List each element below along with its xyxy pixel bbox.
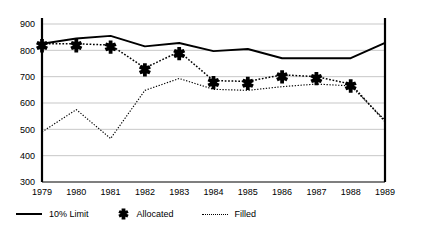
series-line-10-limit — [42, 36, 385, 58]
dotted-line-swatch — [202, 214, 228, 215]
x-axis-tick-label: 1986 — [272, 187, 292, 197]
x-axis-tick-label: 1982 — [135, 187, 155, 197]
y-axis-tick-label: 700 — [20, 72, 35, 82]
cross-marker-swatch — [117, 208, 130, 221]
data-point-marker-allocated — [310, 72, 322, 85]
x-axis-tick-label: 1980 — [66, 187, 86, 197]
x-axis-tick-label: 1987 — [306, 187, 326, 197]
y-axis-tick-label: 300 — [20, 177, 35, 187]
legend-label-10-limit: 10% Limit — [49, 209, 89, 219]
y-axis-tick-label: 600 — [20, 98, 35, 108]
y-axis-tick-label: 500 — [20, 125, 35, 135]
x-axis-tick-label: 1979 — [32, 187, 52, 197]
x-axis-tick-label: 1989 — [375, 187, 395, 197]
data-point-marker-allocated — [139, 63, 151, 76]
x-axis-tick-label: 1983 — [169, 187, 189, 197]
data-point-marker-allocated — [242, 77, 254, 90]
x-axis-tick-label: 1985 — [238, 187, 258, 197]
solid-line-swatch — [16, 213, 42, 215]
legend-item-filled[interactable]: Filled — [202, 209, 257, 219]
y-axis-tick-label: 400 — [20, 151, 35, 161]
legend-item-allocated[interactable]: Allocated — [117, 208, 174, 221]
line-chart: 3004005006007008009001979198019811982198… — [0, 0, 422, 202]
x-axis-tick-label: 1988 — [341, 187, 361, 197]
chart-legend: 10% Limit Allocated Filled — [0, 202, 422, 226]
data-point-marker-allocated — [345, 79, 357, 92]
y-axis-tick-label: 900 — [20, 19, 35, 29]
legend-item-10-limit[interactable]: 10% Limit — [16, 209, 89, 219]
legend-label-allocated: Allocated — [137, 209, 174, 219]
chart-container: 3004005006007008009001979198019811982198… — [0, 0, 422, 232]
legend-label-filled: Filled — [235, 209, 257, 219]
data-point-marker-allocated — [105, 40, 117, 53]
y-axis-tick-label: 800 — [20, 46, 35, 56]
x-axis-tick-label: 1984 — [203, 187, 223, 197]
x-axis-tick-label: 1981 — [101, 187, 121, 197]
